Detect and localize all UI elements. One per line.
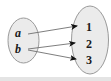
domain-element-b: b: [15, 42, 21, 56]
domain-element-a: a: [15, 26, 21, 40]
mapping-diagram: a b 1 2 3: [0, 0, 111, 81]
codomain-element-2: 2: [86, 37, 92, 51]
codomain-element-3: 3: [86, 53, 92, 67]
footer-band: [0, 77, 111, 81]
diagram-canvas: a b 1 2 3: [0, 0, 111, 81]
domain-set-ellipse: [8, 18, 39, 63]
codomain-element-1: 1: [86, 20, 92, 34]
